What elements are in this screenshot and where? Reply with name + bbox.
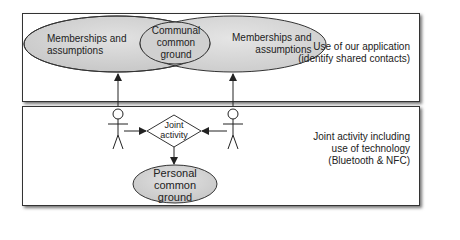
left-ellipse-label: Memberships and assumptions [47, 33, 126, 57]
joint-activity-line1: Joint [150, 120, 198, 130]
joint-caption-line2: use of technology [313, 143, 410, 155]
joint-activity-label: Joint activity [150, 120, 198, 140]
personal-label: Personal common ground [145, 167, 205, 203]
joint-caption-line3: (Bluetooth & NFC) [313, 155, 410, 167]
application-caption-line2: (identify shared contacts) [298, 53, 410, 65]
joint-caption-line1: Joint activity including [313, 131, 410, 143]
personal-line3: ground [145, 191, 205, 203]
joint-activity-line2: activity [150, 130, 198, 140]
left-person-icon [108, 109, 128, 149]
right-person-icon [223, 109, 243, 149]
personal-line2: common [145, 179, 205, 191]
communal-label: Communal common ground [148, 25, 204, 61]
personal-line1: Personal [145, 167, 205, 179]
communal-line3: ground [148, 49, 204, 61]
joint-activity-caption: Joint activity including use of technolo… [313, 131, 410, 167]
communal-line2: common [148, 37, 204, 49]
application-caption-line1: Use of our application [298, 41, 410, 53]
left-ellipse-line2: assumptions [47, 45, 126, 57]
communal-line1: Communal [148, 25, 204, 37]
left-ellipse-line1: Memberships and [47, 33, 126, 45]
application-use-caption: Use of our application (identify shared … [298, 41, 410, 65]
